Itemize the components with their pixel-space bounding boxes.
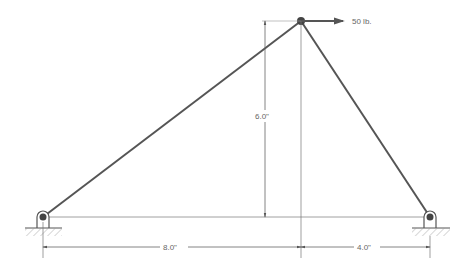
right-member xyxy=(301,21,430,217)
left-pin-support xyxy=(25,211,62,236)
left-span-label: 8.0" xyxy=(163,243,177,252)
truss-diagram: 50 lb. 6.0" 8.0" 4.0" xyxy=(0,0,474,268)
right-pin-support xyxy=(412,211,450,236)
right-span-label: 4.0" xyxy=(357,243,371,252)
truss-members xyxy=(43,21,430,217)
load-label: 50 lb. xyxy=(352,17,372,26)
height-label: 6.0" xyxy=(255,112,269,121)
